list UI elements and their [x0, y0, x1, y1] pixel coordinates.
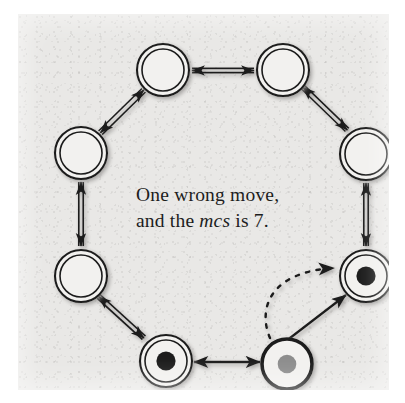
caption-line-1: One wrong move, [136, 182, 279, 207]
node-empty-place-top-left[interactable] [137, 44, 189, 96]
edge-move-dashed [266, 268, 334, 338]
token-black [356, 266, 375, 285]
node-empty-place-left-lower[interactable] [55, 250, 107, 302]
node-token-place-right-lower[interactable] [340, 250, 389, 302]
edge-right-mid [364, 183, 368, 246]
edge-left-top [99, 89, 146, 135]
node-empty-place-left-upper[interactable] [55, 127, 107, 179]
caption-line-2-emphasis: mcs [199, 210, 230, 231]
caption-line-2: and the mcs is 7. [136, 208, 269, 233]
edge-left-bottom [97, 295, 146, 340]
edge-right-top [301, 85, 349, 131]
node-token-place-bottom-left[interactable] [140, 335, 192, 387]
node-empty-place-right-upper[interactable] [340, 128, 389, 180]
node-empty-place-top-right[interactable] [257, 44, 309, 96]
scanned-page-area: One wrong move, and the mcs is 7. [18, 14, 389, 390]
token-gray [278, 355, 297, 374]
edge-top [192, 68, 254, 72]
token-black [156, 351, 175, 370]
node-gray-token-place-bottom-right[interactable] [262, 339, 312, 389]
figure-canvas: One wrong move, and the mcs is 7. [0, 0, 405, 403]
caption-line-2-pre: and the [136, 210, 199, 231]
caption-line-2-post: is 7. [230, 210, 269, 231]
edge-left-mid [79, 182, 83, 246]
